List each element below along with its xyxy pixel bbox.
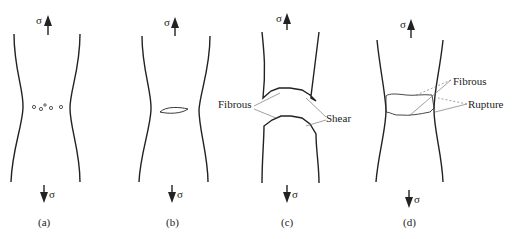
panel-c: [262, 32, 319, 183]
caption-b: (b): [166, 216, 179, 229]
arrow-up-d: [407, 19, 415, 38]
sigma-top-c: σ: [276, 12, 282, 24]
leaders-c: [254, 93, 326, 126]
arrow-down-b: [168, 185, 176, 203]
sigma-top-d: σ: [400, 18, 406, 30]
label-fibrous-c: Fibrous: [218, 98, 252, 110]
rupture-surface: [386, 94, 434, 115]
arrow-up-a: [44, 15, 52, 35]
sigma-bottom-b: σ: [177, 188, 183, 200]
arrow-down-a: [40, 185, 48, 203]
sigma-bottom-a: σ: [49, 188, 55, 200]
crack: [160, 107, 188, 113]
panel-a: [11, 34, 80, 182]
sigma-bottom-c: σ: [292, 188, 298, 200]
lower-cup: [262, 116, 319, 183]
label-shear-c: Shear: [326, 112, 351, 124]
sigma-top-a: σ: [36, 14, 42, 26]
specimen-left-edge: [11, 34, 23, 182]
caption-c: (c): [281, 216, 294, 229]
specimen-right-edge: [70, 34, 80, 182]
label-rupture-d: Rupture: [468, 98, 504, 110]
panel-b: [139, 36, 210, 182]
upper-cone: [262, 32, 319, 101]
sigma-bottom-d: σ: [414, 193, 420, 205]
label-fibrous-d: Fibrous: [453, 75, 487, 87]
voids: [32, 104, 62, 111]
arrow-down-d: [405, 190, 413, 208]
arrow-up-c: [283, 13, 291, 30]
ductile-fracture-diagram: σ σ (a) σ σ (b) Fibrous Shear σ σ (c): [0, 0, 515, 239]
caption-d: (d): [403, 216, 416, 229]
sigma-top-b: σ: [164, 16, 170, 28]
arrow-down-c: [283, 185, 291, 203]
caption-a: (a): [38, 216, 51, 229]
arrow-up-b: [171, 17, 179, 36]
